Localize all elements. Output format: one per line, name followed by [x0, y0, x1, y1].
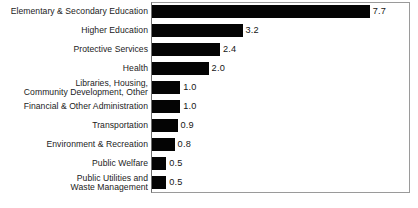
bar-group: 1.0 [152, 81, 197, 94]
category-label: Public Utilities and Waste Management [0, 174, 148, 193]
bar-value-label: 2.4 [223, 45, 236, 54]
bar-group: 3.2 [152, 24, 259, 37]
bar-value-label: 7.7 [373, 7, 386, 16]
bar-value-label: 3.2 [246, 26, 259, 35]
bar [152, 81, 180, 94]
bar-group: 0.5 [152, 176, 183, 189]
category-label: Financial & Other Administration [0, 102, 148, 111]
bar [152, 5, 370, 18]
bar-value-label: 2.0 [212, 64, 225, 73]
category-label: Transportation [0, 121, 148, 130]
bar-group: 2.4 [152, 43, 236, 56]
bar-value-label: 0.8 [178, 140, 191, 149]
bar [152, 119, 178, 132]
bar-value-label: 0.9 [181, 121, 194, 130]
chart-row: Protective Services 2.4 [0, 41, 418, 59]
bar [152, 157, 166, 170]
bar [152, 24, 243, 37]
chart-row: Environment & Recreation 0.8 [0, 136, 418, 154]
category-label: Protective Services [0, 45, 148, 54]
category-label: Environment & Recreation [0, 140, 148, 149]
bar [152, 62, 209, 75]
bar-group: 1.0 [152, 100, 197, 113]
chart-row: Higher Education 3.2 [0, 22, 418, 40]
chart-page: Elementary & Secondary Education 7.7 Hig… [0, 0, 418, 208]
category-label: Elementary & Secondary Education [0, 7, 148, 16]
bar-group: 0.8 [152, 138, 191, 151]
chart-row: Transportation 0.9 [0, 117, 418, 135]
chart-row: Elementary & Secondary Education 7.7 [0, 3, 418, 21]
chart-row: Health 2.0 [0, 60, 418, 78]
chart-row: Public Utilities and Waste Management 0.… [0, 174, 418, 192]
bar [152, 138, 175, 151]
chart-row: Financial & Other Administration 1.0 [0, 98, 418, 116]
bar-group: 2.0 [152, 62, 225, 75]
bar-rows: Elementary & Secondary Education 7.7 Hig… [0, 0, 418, 208]
bar [152, 43, 220, 56]
chart-row: Libraries, Housing, Community Developmen… [0, 79, 418, 97]
bar-group: 0.5 [152, 157, 183, 170]
bar [152, 176, 166, 189]
bar-group: 0.9 [152, 119, 194, 132]
category-label: Higher Education [0, 26, 148, 35]
bar [152, 100, 180, 113]
category-label: Libraries, Housing, Community Developmen… [0, 79, 148, 98]
bar-value-label: 0.5 [169, 178, 182, 187]
category-label: Public Welfare [0, 159, 148, 168]
bar-value-label: 0.5 [169, 159, 182, 168]
bar-value-label: 1.0 [183, 83, 196, 92]
chart-row: Public Welfare 0.5 [0, 155, 418, 173]
category-label: Health [0, 64, 148, 73]
bar-group: 7.7 [152, 5, 386, 18]
bar-value-label: 1.0 [183, 102, 196, 111]
